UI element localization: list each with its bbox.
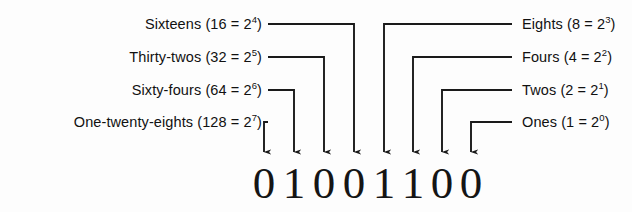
binary-digit: 1 (369, 158, 399, 208)
connector-sixteens (268, 24, 354, 152)
place-label-name: Thirty-twos (129, 49, 201, 65)
binary-place-value-diagram: Sixteens (16 = 24)Thirty-twos (32 = 25)S… (0, 0, 632, 212)
binary-digits-row: 01001100 (0, 158, 632, 210)
binary-digit: 0 (339, 158, 369, 208)
place-label-thirty-twos: Thirty-twos (32 = 25) (129, 50, 262, 65)
place-label-name: Twos (522, 82, 556, 98)
place-label-exponent: 5 (252, 47, 257, 58)
place-label-expression: (2 = 21) (556, 82, 609, 98)
place-label-exponent: 6 (252, 80, 257, 91)
connector-sixty-fours (268, 90, 294, 152)
binary-digit: 0 (456, 158, 486, 208)
place-label-exponent: 2 (602, 47, 607, 58)
connector-one-twenty-eights (264, 122, 268, 152)
connector-fours (413, 57, 512, 152)
place-label-name: Ones (522, 114, 557, 130)
connector-twos (442, 90, 512, 152)
place-label-ones: Ones (1 = 20) (522, 115, 610, 130)
place-label-expression: (64 = 26) (201, 82, 262, 98)
place-label-sixteens: Sixteens (16 = 24) (145, 17, 262, 32)
binary-digit: 1 (279, 158, 309, 208)
binary-digit: 0 (309, 158, 339, 208)
place-label-exponent: 7 (252, 112, 257, 123)
binary-digit: 1 (398, 158, 428, 208)
place-label-exponent: 1 (598, 80, 603, 91)
place-label-exponent: 4 (252, 14, 257, 25)
place-label-exponent: 3 (605, 14, 610, 25)
binary-digit: 0 (427, 158, 457, 208)
place-label-expression: (128 = 27) (193, 114, 262, 130)
place-label-twos: Twos (2 = 21) (522, 83, 609, 98)
place-label-expression: (4 = 22) (560, 49, 613, 65)
place-label-eights: Eights (8 = 23) (522, 17, 615, 32)
place-label-sixty-fours: Sixty-fours (64 = 26) (132, 83, 262, 98)
place-label-name: Fours (522, 49, 560, 65)
place-label-expression: (16 = 24) (201, 16, 262, 32)
place-label-name: Eights (522, 16, 563, 32)
place-label-name: Sixteens (145, 16, 201, 32)
place-label-expression: (8 = 23) (563, 16, 616, 32)
connector-ones (471, 122, 512, 152)
connector-thirty-twos (268, 57, 324, 152)
place-label-expression: (32 = 25) (201, 49, 262, 65)
place-label-name: One-twenty-eights (74, 114, 193, 130)
place-label-one-twenty-eights: One-twenty-eights (128 = 27) (74, 115, 262, 130)
place-label-name: Sixty-fours (132, 82, 202, 98)
binary-digit: 0 (249, 158, 279, 208)
place-label-exponent: 0 (599, 112, 604, 123)
connector-eights (384, 24, 512, 152)
place-label-fours: Fours (4 = 22) (522, 50, 612, 65)
place-label-expression: (1 = 20) (557, 114, 610, 130)
